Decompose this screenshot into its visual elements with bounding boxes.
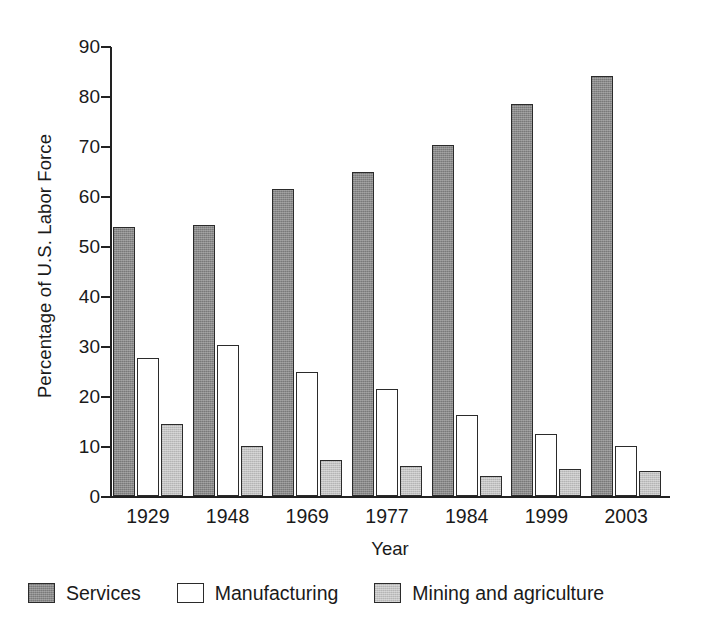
bar-group bbox=[113, 46, 183, 496]
legend-swatch-services-icon bbox=[28, 583, 55, 603]
bar-group bbox=[591, 46, 661, 496]
x-axis-tick-label: 1984 bbox=[422, 505, 512, 527]
bar-services-1948 bbox=[193, 225, 215, 496]
x-axis-tick-labels: 1929194819691977198419992003 bbox=[110, 505, 670, 535]
x-axis-tick-label: 1977 bbox=[342, 505, 432, 527]
bar-manufacturing-2003 bbox=[615, 446, 637, 496]
y-axis-tick-label: 70 bbox=[54, 137, 100, 156]
y-axis-tick bbox=[101, 296, 111, 298]
bar-manufacturing-1977 bbox=[376, 389, 398, 496]
bar-services-1977 bbox=[352, 172, 374, 496]
bar-group bbox=[511, 46, 581, 496]
legend-label-mining: Mining and agriculture bbox=[412, 583, 604, 603]
bar-mining-1929 bbox=[161, 424, 183, 496]
bar-mining-1984 bbox=[480, 476, 502, 496]
bar-services-1969 bbox=[272, 189, 294, 496]
x-axis-tick-label: 1999 bbox=[501, 505, 591, 527]
y-axis-tick bbox=[101, 196, 111, 198]
legend-swatch-mining-icon bbox=[374, 583, 401, 603]
bar-mining-1948 bbox=[241, 446, 263, 496]
chart-legend: Services Manufacturing Mining and agricu… bbox=[28, 578, 688, 608]
y-axis-tick bbox=[101, 396, 111, 398]
legend-item-manufacturing: Manufacturing bbox=[177, 583, 339, 603]
bar-services-1929 bbox=[113, 227, 135, 496]
bar-group bbox=[272, 46, 342, 496]
bar-manufacturing-1969 bbox=[296, 372, 318, 496]
y-axis-tick bbox=[101, 496, 111, 498]
y-axis-tick bbox=[101, 246, 111, 248]
bar-mining-2003 bbox=[639, 471, 661, 496]
y-axis-tick-label: 10 bbox=[54, 437, 100, 456]
x-axis-title: Year bbox=[110, 538, 670, 560]
y-axis-tick bbox=[101, 146, 111, 148]
bar-services-1999 bbox=[511, 104, 533, 496]
y-axis-tick bbox=[101, 96, 111, 98]
x-axis-tick-label: 1969 bbox=[262, 505, 352, 527]
y-axis-tick bbox=[101, 46, 111, 48]
bar-group bbox=[352, 46, 422, 496]
y-axis-tick-label: 50 bbox=[54, 237, 100, 256]
bar-services-1984 bbox=[432, 145, 454, 496]
bar-mining-1977 bbox=[400, 466, 422, 496]
bar-group bbox=[432, 46, 502, 496]
bars-layer bbox=[112, 47, 670, 497]
y-axis-tick-label: 90 bbox=[54, 37, 100, 56]
x-axis-tick-label: 1929 bbox=[103, 505, 193, 527]
y-axis-tick-label: 30 bbox=[54, 337, 100, 356]
legend-item-services: Services bbox=[28, 583, 141, 603]
y-axis-tick-label: 0 bbox=[54, 487, 100, 506]
legend-item-mining: Mining and agriculture bbox=[374, 583, 604, 603]
plot-area: 0102030405060708090 bbox=[110, 47, 670, 497]
bar-services-2003 bbox=[591, 76, 613, 496]
bar-chart-figure: Percentage of U.S. Labor Force 010203040… bbox=[0, 0, 709, 626]
y-axis-tick-label: 80 bbox=[54, 87, 100, 106]
bar-manufacturing-1999 bbox=[535, 434, 557, 496]
bar-manufacturing-1984 bbox=[456, 415, 478, 496]
bar-manufacturing-1929 bbox=[137, 358, 159, 496]
legend-swatch-manufacturing-icon bbox=[177, 583, 204, 603]
y-axis-tick-label: 40 bbox=[54, 287, 100, 306]
bar-group bbox=[193, 46, 263, 496]
bar-mining-1969 bbox=[320, 460, 342, 496]
x-axis-tick-label: 1948 bbox=[183, 505, 273, 527]
bar-mining-1999 bbox=[559, 469, 581, 496]
y-axis-tick-labels: 0102030405060708090 bbox=[44, 47, 100, 498]
bar-manufacturing-1948 bbox=[217, 345, 239, 496]
x-axis-tick-label: 2003 bbox=[581, 505, 671, 527]
legend-label-manufacturing: Manufacturing bbox=[215, 583, 339, 603]
y-axis-tick bbox=[101, 446, 111, 448]
y-axis-tick-label: 20 bbox=[54, 387, 100, 406]
legend-label-services: Services bbox=[66, 583, 141, 603]
y-axis-tick-label: 60 bbox=[54, 187, 100, 206]
y-axis-tick bbox=[101, 346, 111, 348]
